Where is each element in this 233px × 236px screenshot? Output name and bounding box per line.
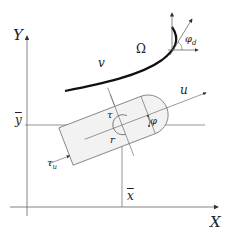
radius-label: r: [110, 135, 115, 145]
torque-top-label: τ: [107, 110, 113, 120]
angle-label: φ: [150, 116, 157, 126]
heading-axis-label: u: [180, 84, 188, 96]
desired-angle-label: φd: [185, 34, 197, 47]
diagram-svg: [0, 0, 233, 236]
x-bar-label: x: [127, 190, 134, 202]
robot-body: [31, 55, 218, 185]
y-axis-label: Y: [13, 28, 23, 43]
path-label: v: [98, 57, 105, 69]
region-label: Ω: [136, 43, 146, 55]
y-bar-label: y: [15, 114, 22, 126]
path-curve: [65, 27, 176, 91]
x-axis-label: X: [210, 215, 221, 230]
torque-side-label: τu: [47, 158, 57, 171]
diagram-canvas: Y X y x v Ω u φ φd r τ τu: [0, 0, 233, 236]
